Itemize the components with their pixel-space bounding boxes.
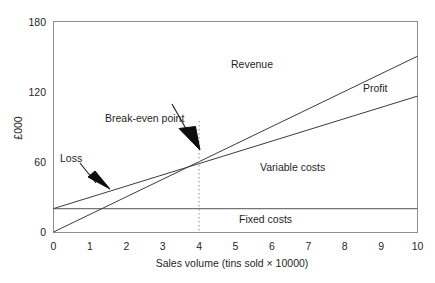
annotation-variable-costs: Variable costs: [260, 161, 325, 173]
loss-arrow: [80, 163, 110, 189]
x-tick-label-6: 6: [269, 240, 275, 252]
y-tick-label-0: 0: [40, 226, 46, 238]
y-axis-title: £000: [12, 116, 24, 140]
x-tick-label-0: 0: [51, 240, 57, 252]
x-tick-label-5: 5: [233, 240, 239, 252]
chart-canvas: 180 120 60 0 0 1 2 3 4 5 6 7 8 9 10 £000…: [0, 0, 435, 283]
x-tick-label-10: 10: [412, 240, 424, 252]
x-tick-label-9: 9: [378, 240, 384, 252]
x-tick-label-7: 7: [305, 240, 311, 252]
figure-caption-partial: [108, 272, 338, 282]
y-tick-label-120: 120: [28, 86, 46, 98]
x-tick-label-4: 4: [196, 240, 202, 252]
annotation-fixed-costs: Fixed costs: [239, 213, 292, 225]
annotation-loss: Loss: [60, 152, 82, 164]
annotation-break-even-point: Break-even point: [105, 112, 184, 124]
x-tick-label-2: 2: [123, 240, 129, 252]
break-even-chart: 180 120 60 0 0 1 2 3 4 5 6 7 8 9 10 £000…: [0, 0, 435, 283]
x-axis-title: Sales volume (tins sold × 10000): [156, 257, 309, 269]
annotation-revenue: Revenue: [231, 58, 273, 70]
annotation-profit: Profit: [363, 82, 388, 94]
x-tick-label-1: 1: [87, 240, 93, 252]
y-tick-label-180: 180: [28, 16, 46, 28]
y-tick-label-60: 60: [34, 156, 46, 168]
x-tick-label-3: 3: [160, 240, 166, 252]
break-even-arrow: [172, 104, 200, 150]
x-tick-label-8: 8: [342, 240, 348, 252]
plot-frame: [54, 22, 418, 233]
